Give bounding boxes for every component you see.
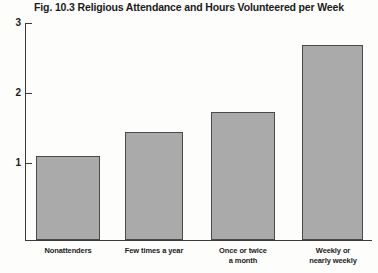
y-tick-label-2: 2 (0, 88, 21, 98)
x-label-line: nearly weekly (293, 256, 373, 266)
bar-once-or-twice-a-month (211, 112, 275, 240)
y-tick-label-1: 1 (0, 158, 21, 168)
x-label-line: Nonattenders (28, 246, 108, 256)
x-label-few-times-a-year: Few times a year (114, 246, 194, 256)
x-label-line: a month (203, 256, 283, 266)
y-tick-mark-2 (26, 93, 32, 94)
chart-title: Fig. 10.3 Religious Attendance and Hours… (0, 1, 378, 13)
bar-weekly-or-nearly-weekly (302, 45, 363, 240)
x-label-line: Few times a year (114, 246, 194, 256)
x-axis-line (25, 240, 372, 241)
x-label-nonattenders: Nonattenders (28, 246, 108, 256)
x-label-line: Once or twice (203, 246, 283, 256)
y-tick-label-3: 3 (0, 18, 21, 28)
x-label-once-or-twice-a-month: Once or twice a month (203, 246, 283, 266)
bar-few-times-a-year (125, 132, 183, 241)
x-label-weekly-or-nearly-weekly: Weekly or nearly weekly (293, 246, 373, 266)
figure-bar-chart: Fig. 10.3 Religious Attendance and Hours… (0, 0, 378, 273)
y-axis-line (25, 23, 26, 241)
y-tick-mark-1 (26, 163, 32, 164)
bar-nonattenders (36, 156, 100, 240)
y-tick-mark-3 (26, 23, 32, 24)
x-label-line: Weekly or (293, 246, 373, 256)
